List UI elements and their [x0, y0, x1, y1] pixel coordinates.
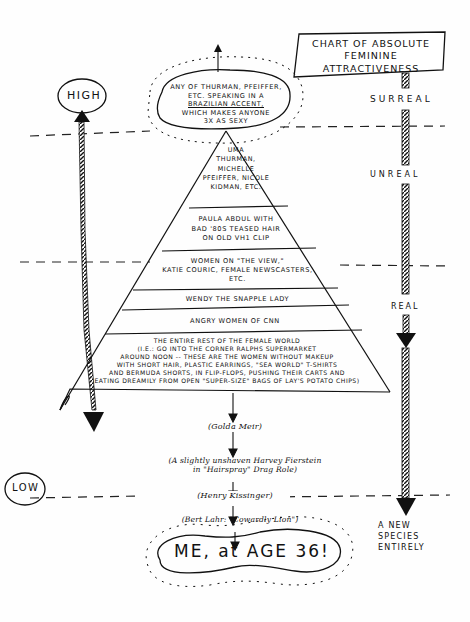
zone-label-surreal: Surreal — [370, 94, 433, 104]
tier-2-line: on old VH1 clip — [176, 234, 296, 244]
below-item-golda-meir: (Golda Meir) — [180, 422, 290, 432]
top-bubble-line-1: Any of Thurman, Pfeiffer, — [166, 83, 286, 92]
top-bubble-line-4: which makes anyone — [166, 109, 286, 118]
scale-low-label: Low — [12, 482, 39, 495]
scale-high-label: High — [67, 89, 101, 103]
below-item-bert-lahr: (Bert Lahr: "Cowardly Lion") — [140, 515, 340, 524]
tier-2-line: bad '80s teased hair — [176, 225, 296, 235]
pyramid-tier-6: The entire rest of the female world (i.e… — [62, 337, 392, 385]
tier-1-line: Michelle — [196, 165, 276, 174]
title-line-1: Chart of Absolute — [297, 38, 445, 50]
pyramid-tier-3: Women on "The View," Katie Couric, femal… — [140, 257, 335, 285]
tier-2-line: Paula Abdul with — [176, 215, 296, 225]
tier-3-line: etc. — [140, 275, 335, 284]
below-item-henry-kissinger: (Henry Kissinger) — [180, 491, 290, 501]
tier-6-line: around noon -- these are the women witho… — [62, 353, 392, 361]
new-species-line-3: entirely — [378, 542, 425, 553]
pyramid-tier-2: Paula Abdul with bad '80s teased hair on… — [176, 215, 296, 244]
tier-6-line: The entire rest of the female world — [62, 337, 392, 345]
tier-6-line: with short hair, plastic earrings, "Sea … — [62, 361, 392, 369]
tier-1-line: Kidman, etc. — [196, 183, 276, 192]
up-arrow — [214, 44, 222, 72]
tier-1-line: Pfeiffer, Nicole — [196, 174, 276, 183]
new-species-line-2: species — [378, 531, 425, 542]
new-species-label: A new species entirely — [378, 520, 425, 554]
bottom-bubble-text: ME, at AGE 36! — [162, 541, 342, 562]
tier-1-line: Thurman, — [196, 155, 276, 164]
tier-6-line: eating dreamily from open "super-size" b… — [62, 377, 392, 385]
top-bubble-line-3: Brazilian accent, — [166, 100, 286, 109]
pyramid-tier-1: Uma Thurman, Michelle Pfeiffer, Nicole K… — [196, 146, 276, 192]
pyramid-tier-4: Wendy the Snapple Lady — [140, 295, 335, 303]
zone-label-real: Real — [391, 302, 420, 311]
left-scale-arrow — [5, 79, 106, 505]
tier-3-line: Katie Couric, female newscasters, — [140, 266, 335, 275]
new-species-line-1: A new — [378, 520, 425, 531]
title-line-2: Feminine Attractiveness — [297, 50, 445, 75]
harvey-line-2: in "Hairspray" Drag Role) — [130, 466, 360, 475]
chart-title: Chart of Absolute Feminine Attractivenes… — [297, 32, 445, 75]
top-bubble-text: Any of Thurman, Pfeiffer, etc. speaking … — [166, 83, 286, 126]
tier-1-line: Uma — [196, 146, 276, 155]
top-bubble-line-2: etc. speaking in a — [166, 92, 286, 101]
tier-6-line: and Bermuda shorts, in flip-flops, pushi… — [62, 369, 392, 377]
attractiveness-chart: Chart of Absolute Feminine Attractivenes… — [0, 0, 470, 622]
zone-label-unreal: Unreal — [370, 170, 420, 179]
top-bubble-line-5: 3x as sexy — [166, 117, 286, 126]
right-scale-arrow — [396, 73, 416, 516]
pyramid-tier-5: Angry women of CNN — [130, 317, 340, 325]
tier-3-line: Women on "The View," — [140, 257, 335, 266]
below-item-harvey-fierstein: (A slightly unshaven Harvey Fierstein in… — [130, 457, 360, 474]
tier-6-line: (i.e.: Go into the corner Ralphs superma… — [62, 345, 392, 353]
